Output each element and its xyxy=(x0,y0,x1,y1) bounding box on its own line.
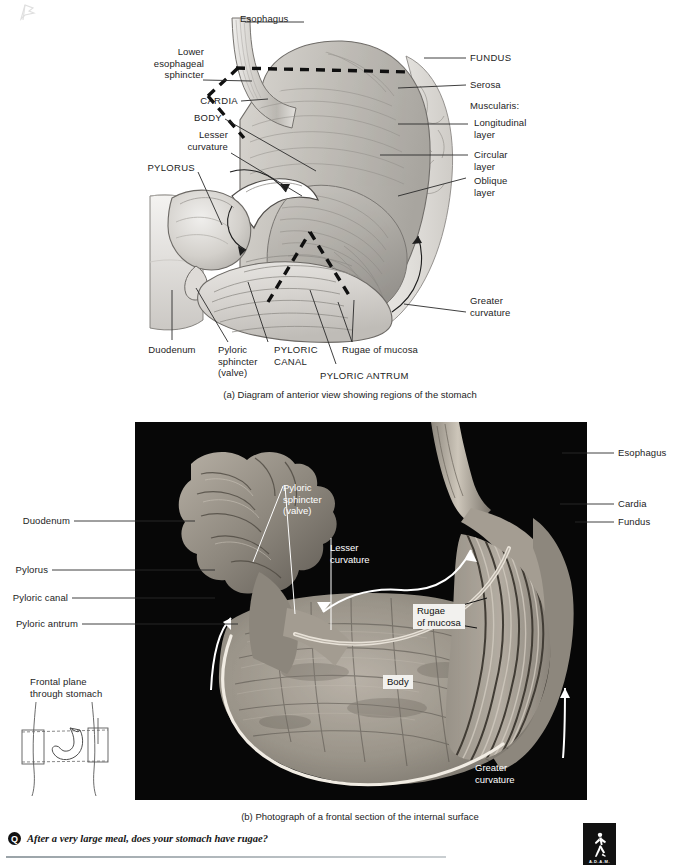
label-esophagus-a: Esophagus xyxy=(240,13,306,25)
label-pyloric-antrum-a: PYLORIC ANTRUM xyxy=(320,370,409,382)
label-circular-layer: Circular layer xyxy=(474,149,508,172)
label-pyloric-antrum-b: Pyloric antrum xyxy=(0,618,78,630)
label-oblique-layer: Oblique layer xyxy=(474,175,507,198)
label-greater-curvature-a: Greater curvature xyxy=(470,295,511,318)
adam-logo: A.D.A.M. xyxy=(583,823,616,865)
label-pyloric-canal-b: Pyloric canal xyxy=(0,592,68,604)
caption-panel-b: (b) Photograph of a frontal section of t… xyxy=(160,811,560,822)
label-pyloric-canal-a: PYLORIC CANAL xyxy=(274,344,340,367)
question-marker-icon: Q xyxy=(8,832,21,845)
inset-title: Frontal plane through stomach xyxy=(30,676,130,699)
label-cardia-a: CARDIA xyxy=(134,95,238,107)
label-body-a: BODY xyxy=(134,112,222,124)
label-greater-curvature-b: Greater curvature xyxy=(475,762,515,785)
label-lesser-curvature-a: Lesser curvature xyxy=(134,129,228,152)
caption-panel-a: (a) Diagram of anterior view showing reg… xyxy=(150,389,550,400)
label-longitudinal-layer: Longitudinal layer xyxy=(474,117,526,140)
inset-frontal-plane-diagram xyxy=(14,700,126,796)
label-pylorus-a: PYLORUS xyxy=(110,162,195,174)
label-lesser-curvature-b: Lesser curvature xyxy=(330,542,370,565)
label-fundus-b: Fundus xyxy=(618,516,650,528)
label-muscularis-heading: Muscularis: xyxy=(470,100,519,112)
panel-b-photograph: Pyloric sphincter (valve) Lesser curvatu… xyxy=(135,422,587,800)
question-bar-rule xyxy=(6,856,446,858)
label-pyloric-sphincter-b: Pyloric sphincter (valve) xyxy=(283,482,322,517)
label-pylorus-b: Pylorus xyxy=(0,564,48,576)
label-fundus-a: FUNDUS xyxy=(470,52,511,64)
question-text: After a very large meal, does your stoma… xyxy=(27,833,268,844)
label-duodenum-b: Duodenum xyxy=(0,515,70,527)
label-duodenum-a: Duodenum xyxy=(122,344,222,356)
adam-logo-text: A.D.A.M. xyxy=(589,859,610,864)
label-esophagus-b: Esophagus xyxy=(618,447,666,459)
label-serosa-a: Serosa xyxy=(470,79,501,91)
label-cardia-b: Cardia xyxy=(618,498,647,510)
label-rugae-of-mucosa-b: Rugae of mucosa xyxy=(413,604,465,629)
label-lower-esophageal-sphincter: Lower esophageal sphincter xyxy=(118,46,204,81)
label-pyloric-sphincter-a: Pyloric sphincter (valve) xyxy=(218,344,282,379)
scan-artifact-icon xyxy=(17,2,39,22)
figure-page: Esophagus Lower esophageal sphincter CAR… xyxy=(0,0,675,865)
question-bar: Q After a very large meal, does your sto… xyxy=(8,832,568,845)
label-body-b: Body xyxy=(383,675,413,689)
walking-figure-icon xyxy=(589,831,611,859)
label-rugae-of-mucosa-a: Rugae of mucosa xyxy=(342,344,418,356)
